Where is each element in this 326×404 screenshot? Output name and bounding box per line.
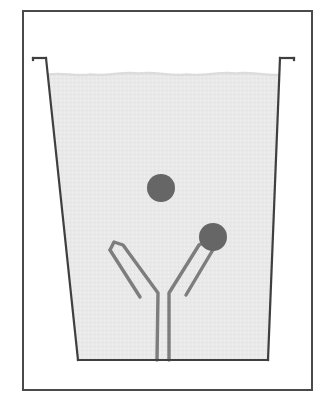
antigen-free bbox=[147, 174, 175, 202]
figure-root: Antibody binding antigen in solution Y-s… bbox=[0, 0, 326, 404]
liquid-fill bbox=[42, 73, 284, 366]
antigen-bound bbox=[199, 223, 227, 251]
liquid-group bbox=[42, 73, 284, 366]
diagram-canvas bbox=[0, 0, 326, 404]
